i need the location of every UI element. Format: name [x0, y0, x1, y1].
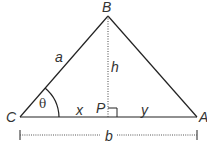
side-a	[20, 16, 108, 117]
angle-theta-label: θ	[39, 97, 46, 111]
side-ab	[108, 16, 197, 117]
point-p-label: P	[96, 100, 106, 116]
right-angle-marker	[108, 108, 117, 117]
side-a-label: a	[55, 49, 63, 65]
angle-arc	[45, 88, 59, 117]
segment-x-label: x	[75, 102, 84, 118]
side-b-label: b	[105, 128, 113, 144]
triangle-diagram: B C A P a h x y b θ	[0, 0, 207, 151]
vertex-c-label: C	[6, 109, 17, 125]
vertex-a-label: A	[198, 109, 207, 125]
segment-y-label: y	[140, 102, 149, 118]
vertex-b-label: B	[102, 0, 111, 15]
altitude-h-label: h	[111, 59, 119, 75]
